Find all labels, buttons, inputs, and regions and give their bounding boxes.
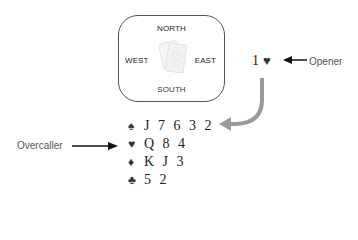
heart-cards: Q 8 4 [144,136,188,151]
spade-cards: J 7 6 3 2 [144,118,214,133]
overcaller-hand: ♠J 7 6 3 2 ♥Q 8 4 ♦K J 3 ♣5 2 [128,117,214,189]
diamond-suit-icon: ♦ [128,153,144,171]
hand-row-diamonds: ♦K J 3 [128,153,214,171]
hand-row-clubs: ♣5 2 [128,171,214,189]
overcaller-arrow-icon [72,142,118,150]
overcaller-label: Overcaller [17,140,63,151]
hand-row-hearts: ♥Q 8 4 [128,135,214,153]
hand-row-spades: ♠J 7 6 3 2 [128,117,214,135]
opener-label: Opener [309,56,342,67]
opener-arrow-icon [283,56,307,64]
diamond-cards: K J 3 [144,154,186,169]
club-cards: 5 2 [144,172,169,187]
curved-arrow-icon [219,78,262,131]
club-suit-icon: ♣ [128,171,144,189]
heart-suit-icon: ♥ [128,135,144,153]
spade-suit-icon: ♠ [128,117,144,135]
